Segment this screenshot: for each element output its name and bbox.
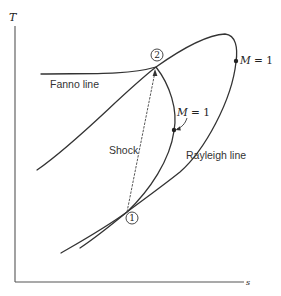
y-axis-label: T <box>9 11 18 24</box>
fanno-mach-one-label: M = 1 <box>176 106 210 118</box>
state-2-label: 2 <box>154 50 160 60</box>
state-2-marker: 2 <box>151 49 163 61</box>
rayleigh-mach-one-dot <box>234 59 238 63</box>
shock-label: Shock <box>109 144 139 156</box>
mach-pointer-arrowhead-icon <box>176 126 181 130</box>
state-1-label: 1 <box>129 213 135 223</box>
state-1-marker: 1 <box>126 212 138 224</box>
fanno-line-curve <box>41 67 175 248</box>
t-s-diagram: T s 2 1 Fanno line Shock Rayleigh line M… <box>0 0 281 296</box>
rayleigh-line-label: Rayleigh line <box>186 149 246 161</box>
shock-line <box>127 72 155 212</box>
rayleigh-mach-one-label: M = 1 <box>239 54 273 66</box>
fanno-line-label: Fanno line <box>50 78 99 90</box>
shock-arrowhead-icon <box>153 69 158 76</box>
mach-pointer-arrow <box>177 118 187 129</box>
x-axis-label: s <box>246 278 250 287</box>
shock <box>127 69 157 212</box>
